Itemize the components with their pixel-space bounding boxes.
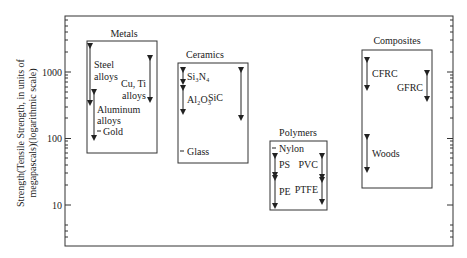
y-axis-label-line1: Strength(Tensile Strength, in units of: [15, 58, 27, 207]
label-gfrc: GFRC: [397, 82, 423, 93]
label-pe: PE: [279, 186, 291, 197]
label-cuti-2: alloys: [122, 90, 146, 101]
label-steel: Steel: [94, 59, 114, 70]
label-gold: Gold: [103, 126, 123, 137]
metals-title: Metals: [110, 28, 137, 39]
right-axis-ticks: [447, 20, 453, 237]
label-cfrc: CFRC: [372, 68, 398, 79]
label-cuti: Cu, Ti: [121, 78, 146, 89]
group-metals: Metals Steel alloys Cu, Ti alloys Alumin…: [87, 28, 157, 153]
y-axis-label-line2: megapascals)(logarithmic scale): [27, 68, 39, 197]
strength-diagram: 1000 100 10 Strength(Tensile Strength, i…: [0, 0, 467, 258]
label-woods: Woods: [372, 148, 400, 159]
label-sic: SiC: [208, 92, 223, 103]
ytick-100: 100: [47, 133, 62, 144]
label-pvc: PVC: [299, 159, 319, 170]
label-nylon: Nylon: [279, 143, 304, 154]
y-axis-label: Strength(Tensile Strength, in units of m…: [15, 58, 39, 207]
ytick-1000: 1000: [42, 67, 62, 78]
group-composites: Composites CFRC GFRC Woods: [362, 35, 432, 188]
composites-title: Composites: [373, 35, 420, 46]
left-axis-ticks: [65, 20, 71, 237]
group-polymers: Polymers Nylon PS PE PVC PTFE: [270, 127, 327, 210]
label-ptfe: PTFE: [295, 184, 318, 195]
label-si3n4: Si₃N₄: [187, 71, 210, 82]
label-aluminum-2: alloys: [97, 115, 121, 126]
label-steel-2: alloys: [94, 71, 118, 82]
ytick-10: 10: [52, 200, 62, 211]
label-glass: Glass: [187, 146, 209, 157]
group-ceramics: Ceramics Si₃N₄ Al₂O₃ SiC Glass: [178, 49, 248, 163]
ceramics-title: Ceramics: [186, 49, 224, 60]
label-ps: PS: [279, 159, 290, 170]
polymers-title: Polymers: [279, 127, 317, 138]
label-aluminum: Aluminum: [97, 104, 141, 115]
